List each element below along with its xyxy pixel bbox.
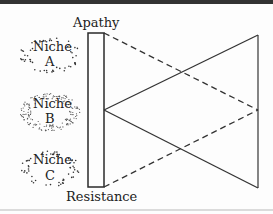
top-border	[0, 0, 273, 4]
solid-line-bottom	[104, 110, 258, 188]
niche-diagram: Apathy Resistance Niche A Niche B Niche …	[0, 0, 273, 214]
niche-c-title: Niche	[33, 152, 72, 167]
niche-a-title: Niche	[33, 39, 72, 54]
niche-a-letter: A	[44, 54, 55, 69]
niche-c-letter: C	[45, 168, 55, 183]
resistance-label: Resistance	[66, 189, 138, 204]
niche-b-title: Niche	[33, 96, 72, 111]
solid-line-top	[104, 35, 258, 110]
apathy-label: Apathy	[72, 15, 120, 30]
niche-b-letter: B	[45, 111, 55, 126]
continuum-bar	[88, 33, 104, 187]
